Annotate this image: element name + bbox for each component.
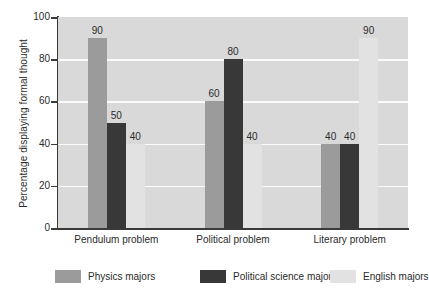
bar-value-label: 80 <box>218 46 249 57</box>
x-tick-label-3: Literary problem <box>290 234 410 245</box>
y-tick-label-60: 60 <box>8 96 50 106</box>
legend-label: Political science majors <box>233 270 337 283</box>
bar-political-science-3 <box>340 144 359 228</box>
legend-swatch-political-science <box>200 270 226 283</box>
y-axis-tick-group: 020406080100 <box>0 0 50 299</box>
bar-political-science-2 <box>224 59 243 228</box>
x-tick-label-1: Pendulum problem <box>56 234 176 245</box>
bar-physics-3 <box>321 144 340 228</box>
y-tick-label-80: 80 <box>8 54 50 64</box>
bar-english-1 <box>126 144 145 228</box>
legend-label: Physics majors <box>88 270 155 283</box>
legend-label: English majors <box>363 270 429 283</box>
bar-english-2 <box>243 144 262 228</box>
bar-value-label: 90 <box>82 25 113 36</box>
x-tick-label-2: Political problem <box>173 234 293 245</box>
legend-swatch-english <box>330 270 356 283</box>
bar-value-label: 40 <box>237 131 268 142</box>
chart-legend: Physics majorsPolitical science majorsEn… <box>0 268 423 290</box>
y-tick-label-100: 100 <box>8 12 50 22</box>
y-tick-label-40: 40 <box>8 139 50 149</box>
bar-value-label: 50 <box>101 110 132 121</box>
bar-physics-2 <box>205 101 224 228</box>
legend-swatch-physics <box>55 270 81 283</box>
bar-value-label: 40 <box>334 131 365 142</box>
bar-value-label: 60 <box>199 88 230 99</box>
bar-physics-1 <box>88 38 107 228</box>
x-axis-line <box>57 228 409 230</box>
y-tick-label-0: 0 <box>8 223 50 233</box>
bar-value-label: 90 <box>353 25 384 36</box>
bar-value-label: 40 <box>120 131 151 142</box>
y-tick-label-20: 20 <box>8 181 50 191</box>
